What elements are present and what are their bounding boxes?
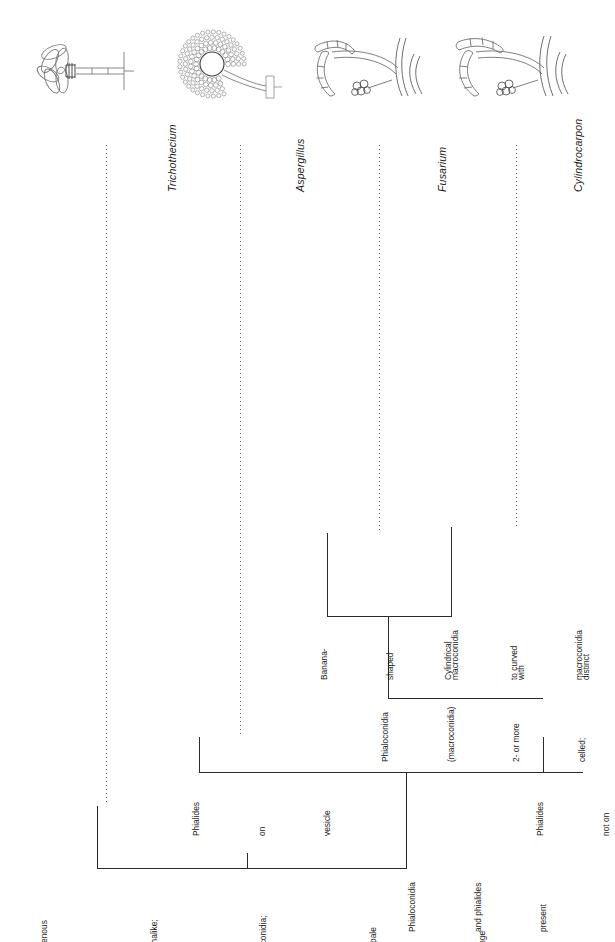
- leader-aspergillus: [240, 145, 241, 737]
- couplet2-stem: [199, 772, 583, 773]
- leader-trichothecium: [106, 145, 107, 805]
- couplet3-stem: [388, 698, 543, 699]
- couplet4-arm-b: [451, 527, 452, 617]
- couplet1-tick-start: [247, 853, 248, 869]
- couplet4-arm-a: [327, 533, 328, 617]
- drawing-cylindrocarpon: [452, 32, 574, 106]
- drawing-aspergillus: [168, 28, 288, 106]
- couplet1-arm-a: [97, 806, 98, 869]
- drawing-fusarium: [310, 34, 428, 106]
- couplet4-stem: [327, 616, 451, 617]
- couplet1-stem: [97, 868, 407, 869]
- couplet2-tick-from-1b: [406, 772, 407, 806]
- leader-cylindrocarpon: [516, 145, 517, 527]
- couplet2-arm-b: [543, 737, 544, 773]
- couplet2-arm-a: [199, 737, 200, 773]
- leader-fusarium: [379, 145, 380, 533]
- drawing-trichothecium: [28, 30, 138, 100]
- couplet1-arm-b: [406, 806, 407, 869]
- key-diagram-page: Trichothecium Aspergillus Fusarium Cylin…: [0, 0, 615, 942]
